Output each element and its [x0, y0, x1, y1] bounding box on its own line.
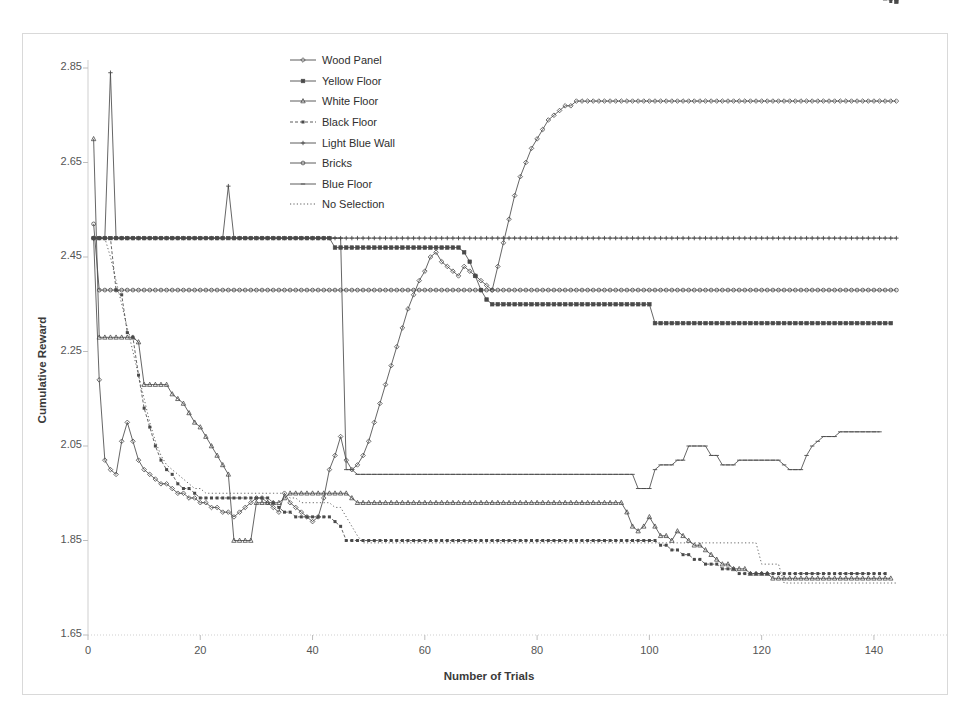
legend-marker-icon — [288, 177, 318, 191]
series-blue-floor — [91, 0, 898, 489]
legend-item-bricks[interactable]: Bricks — [288, 153, 395, 174]
legend-item-no-selection[interactable]: No Selection — [288, 194, 395, 215]
legend-label: Blue Floor — [322, 178, 372, 190]
x-tick-label: 40 — [288, 644, 338, 656]
legend-item-light-blue-wall[interactable]: Light Blue Wall — [288, 132, 395, 153]
legend-marker-icon — [288, 197, 318, 211]
x-tick-label: 100 — [624, 644, 674, 656]
legend-label: No Selection — [322, 198, 384, 210]
line-chart-svg — [0, 0, 969, 727]
y-tick-label: 1.85 — [38, 533, 82, 545]
series-white-floor — [91, 136, 893, 580]
series-black-floor — [92, 0, 898, 575]
legend-item-white-floor[interactable]: White Floor — [288, 91, 395, 112]
legend-item-yellow-floor[interactable]: Yellow Floor — [288, 71, 395, 92]
y-axis-title: Cumulative Reward — [36, 270, 48, 470]
y-tick-label: 2.45 — [38, 249, 82, 261]
y-tick-label: 1.65 — [38, 627, 82, 639]
x-tick-label: 120 — [737, 644, 787, 656]
plot-area — [0, 0, 969, 727]
legend-label: Bricks — [322, 157, 352, 169]
legend-label: Black Floor — [322, 116, 377, 128]
series-light-blue-wall — [91, 71, 898, 241]
y-axis-title-wrap: Cumulative Reward — [40, 470, 41, 471]
series-bricks — [92, 222, 899, 292]
legend-marker-icon — [288, 115, 318, 129]
x-tick-label: 0 — [63, 644, 113, 656]
legend-marker-icon — [288, 136, 318, 150]
y-tick-label: 2.85 — [38, 60, 82, 72]
x-tick-label: 140 — [849, 644, 899, 656]
legend-marker-icon — [288, 94, 318, 108]
x-tick-label: 80 — [512, 644, 562, 656]
chart-page: 1.651.852.052.252.452.652.85 02040608010… — [0, 0, 969, 727]
legend-marker-icon — [288, 74, 318, 88]
legend-marker-icon — [288, 53, 318, 67]
legend-item-black-floor[interactable]: Black Floor — [288, 112, 395, 133]
chart-legend: Wood PanelYellow FloorWhite FloorBlack F… — [288, 50, 395, 215]
legend-label: Wood Panel — [322, 54, 382, 66]
legend-label: Yellow Floor — [322, 75, 382, 87]
legend-item-blue-floor[interactable]: Blue Floor — [288, 174, 395, 195]
legend-label: White Floor — [322, 95, 378, 107]
legend-item-wood-panel[interactable]: Wood Panel — [288, 50, 395, 71]
x-tick-label: 60 — [400, 644, 450, 656]
legend-marker-icon — [288, 156, 318, 170]
x-tick-label: 20 — [175, 644, 225, 656]
y-tick-label: 2.65 — [38, 155, 82, 167]
legend-label: Light Blue Wall — [322, 137, 395, 149]
x-axis-title: Number of Trials — [88, 670, 890, 682]
series-yellow-floor — [92, 0, 898, 325]
